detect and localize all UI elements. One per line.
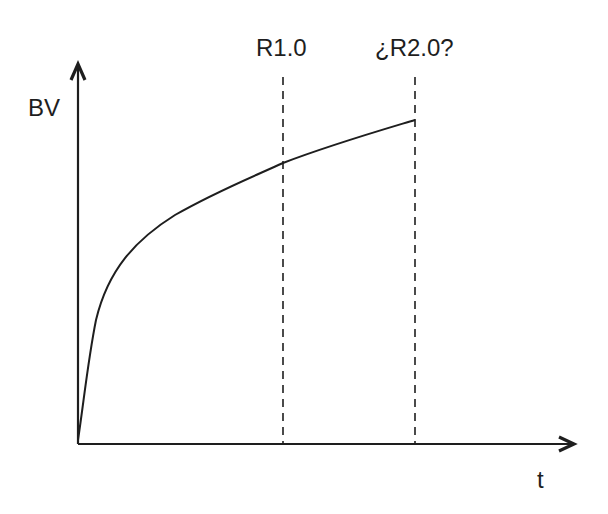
marker-label-r1: R1.0 bbox=[256, 36, 307, 60]
diagram-canvas bbox=[0, 0, 608, 514]
x-axis-label: t bbox=[537, 468, 544, 492]
y-axis-label: BV bbox=[28, 96, 60, 120]
value-curve bbox=[78, 120, 415, 440]
marker-label-r2: ¿R2.0? bbox=[375, 36, 454, 60]
